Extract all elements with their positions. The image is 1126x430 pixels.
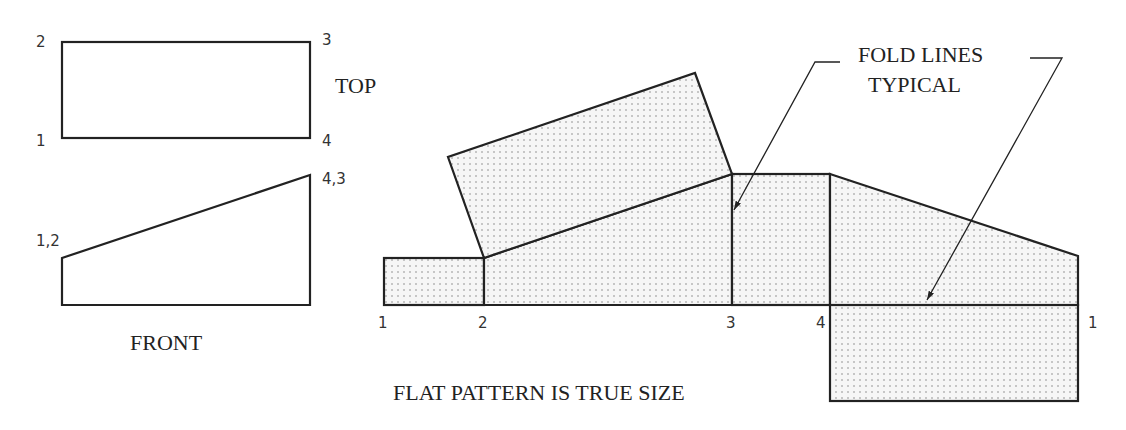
front-view-trapezoid bbox=[62, 175, 310, 305]
top-view-rectangle bbox=[62, 42, 310, 138]
top-point-1: 1 bbox=[36, 132, 46, 150]
flat-label-1-left: 1 bbox=[378, 314, 388, 332]
top-point-3: 3 bbox=[322, 31, 332, 49]
panel-4-1 bbox=[830, 174, 1078, 305]
sheet-metal-diagram: 2 3 1 4 TOP 1,2 4,3 FRONT 1 2 3 4 1 FLAT… bbox=[0, 0, 1126, 430]
flat-label-4: 4 bbox=[816, 314, 826, 332]
panel-3-4 bbox=[732, 174, 830, 305]
flat-label-1-right: 1 bbox=[1088, 314, 1098, 332]
annotation-line-1: FOLD LINES bbox=[858, 42, 983, 67]
flat-label-2: 2 bbox=[478, 314, 488, 332]
flat-pattern: 1 2 3 4 1 FLAT PATTERN IS TRUE SIZE bbox=[378, 73, 1098, 405]
bottom-flap bbox=[830, 305, 1078, 401]
top-point-2: 2 bbox=[36, 33, 46, 51]
top-view-title: TOP bbox=[335, 73, 376, 98]
top-view: 2 3 1 4 TOP bbox=[36, 31, 376, 150]
front-view-title: FRONT bbox=[130, 330, 203, 355]
annotation-line-2: TYPICAL bbox=[868, 72, 961, 97]
top-point-4: 4 bbox=[322, 132, 332, 150]
flat-pattern-caption: FLAT PATTERN IS TRUE SIZE bbox=[393, 380, 685, 405]
front-label-1-2: 1,2 bbox=[36, 232, 60, 250]
panel-1-2 bbox=[384, 258, 484, 305]
flat-label-3: 3 bbox=[726, 314, 736, 332]
front-label-4-3: 4,3 bbox=[322, 170, 346, 188]
front-view: 1,2 4,3 FRONT bbox=[36, 170, 346, 355]
